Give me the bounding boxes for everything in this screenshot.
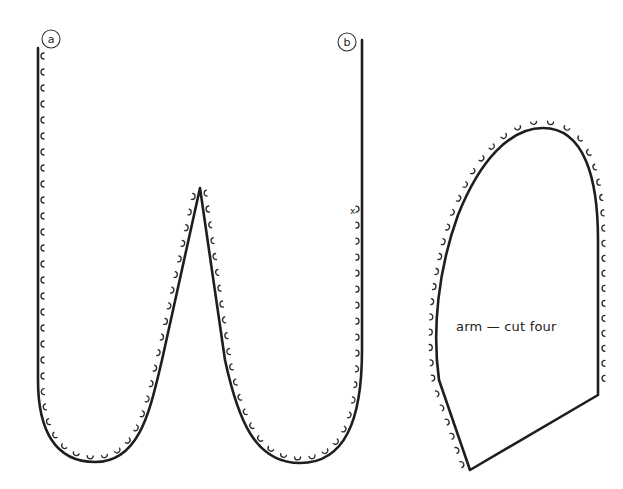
- stitch-mark: [602, 315, 605, 321]
- stitch-mark: [206, 206, 209, 212]
- stitch-mark: [479, 156, 484, 161]
- stitch-mark: [167, 303, 171, 309]
- stitch-mark: [102, 454, 108, 457]
- stitch-mark: [601, 210, 604, 216]
- stitch-mark: [281, 454, 287, 458]
- stitch-mark: [41, 69, 44, 75]
- stitch-mark: [515, 126, 521, 130]
- stitch-mark: [218, 285, 221, 291]
- stitch-mark: [356, 286, 359, 292]
- stitch-mark: [429, 344, 432, 350]
- stitch-mark: [587, 149, 591, 155]
- stitch-mark: [597, 179, 601, 185]
- stitch-mark: [41, 245, 44, 251]
- stitch-mark: [41, 101, 44, 107]
- marker-b-label: b: [344, 36, 351, 49]
- arm-piece-seam-allowance: [429, 121, 605, 468]
- stitch-mark: [174, 272, 177, 278]
- stitch-mark: [73, 452, 79, 456]
- stitch-mark: [501, 134, 506, 139]
- stitch-mark: [41, 341, 44, 347]
- stitch-mark: [43, 404, 46, 410]
- stitch-mark: [145, 396, 149, 402]
- arm-piece-outline: [436, 128, 598, 470]
- stitch-mark: [342, 426, 346, 432]
- stitch-mark: [41, 149, 44, 155]
- stitch-mark: [41, 197, 44, 203]
- stitch-mark: [41, 117, 44, 123]
- stitch-mark: [223, 317, 226, 323]
- stitch-mark: [429, 329, 432, 335]
- stitch-mark: [356, 206, 359, 212]
- stitch-mark: [445, 419, 449, 425]
- stitch-mark: [220, 301, 223, 307]
- stitch-mark: [602, 375, 605, 381]
- stitch-mark: [578, 136, 582, 141]
- stitch-mark: [41, 229, 44, 235]
- stitch-mark: [181, 240, 185, 246]
- stitch-mark: [463, 182, 467, 188]
- marker-a-label: a: [48, 33, 55, 46]
- stitch-mark: [602, 240, 605, 246]
- stitch-mark: [41, 277, 44, 283]
- stitch-mark: [593, 164, 597, 170]
- stitch-mark: [322, 449, 328, 454]
- stitch-mark: [41, 373, 44, 379]
- stitch-mark: [600, 195, 603, 201]
- stitch-mark: [227, 349, 230, 355]
- stitch-mark: [225, 333, 228, 339]
- stitch-mark: [213, 254, 216, 260]
- stitch-mark: [356, 254, 359, 260]
- stitch-mark: [602, 360, 605, 366]
- stitch-mark: [41, 309, 44, 315]
- stitch-mark: [41, 85, 44, 91]
- stitch-mark: [53, 432, 57, 437]
- stitch-mark: [62, 444, 67, 449]
- stitch-mark: [211, 238, 214, 244]
- stitch-mark: [41, 213, 44, 219]
- stitch-mark: [309, 455, 315, 459]
- stitch-mark: [430, 314, 433, 320]
- stitch-mark: [238, 394, 242, 400]
- stitch-mark: [460, 462, 464, 468]
- stitch-mark: [431, 299, 434, 305]
- stitch-mark: [134, 425, 138, 431]
- stitch-mark: [153, 365, 156, 371]
- body-piece-seam-allowance: [41, 53, 359, 460]
- stitch-mark: [41, 357, 44, 363]
- stitch-mark: [295, 457, 301, 460]
- body-piece-outline: [38, 40, 362, 463]
- notch-mark: x: [350, 206, 356, 216]
- stitch-mark: [471, 168, 475, 173]
- stitch-mark: [171, 287, 174, 293]
- stitch-mark: [564, 126, 570, 131]
- stitch-mark: [157, 350, 160, 356]
- stitch-mark: [41, 293, 44, 299]
- stitch-mark: [191, 193, 195, 199]
- stitch-mark: [258, 436, 263, 441]
- stitch-mark: [446, 224, 450, 230]
- stitch-mark: [440, 405, 443, 411]
- stitch-mark: [548, 121, 554, 124]
- stitch-mark: [149, 381, 153, 387]
- stitch-mark: [356, 270, 359, 276]
- stitch-mark: [602, 330, 605, 336]
- stitch-mark: [356, 238, 359, 244]
- stitch-mark: [450, 433, 454, 439]
- stitch-mark: [230, 364, 234, 370]
- stitch-mark: [234, 379, 238, 385]
- stitch-mark: [87, 456, 93, 459]
- stitch-mark: [216, 269, 219, 275]
- stitch-mark: [348, 412, 351, 418]
- stitch-mark: [602, 270, 605, 276]
- stitch-mark: [489, 144, 494, 149]
- stitch-mark: [164, 318, 168, 324]
- stitch-mark: [160, 334, 163, 340]
- marker-a: a: [42, 30, 60, 48]
- stitch-mark: [47, 419, 51, 425]
- stitch-mark: [356, 302, 359, 308]
- stitch-mark: [456, 195, 460, 201]
- stitch-mark: [450, 210, 454, 216]
- stitch-mark: [41, 325, 44, 331]
- stitch-mark: [41, 165, 44, 171]
